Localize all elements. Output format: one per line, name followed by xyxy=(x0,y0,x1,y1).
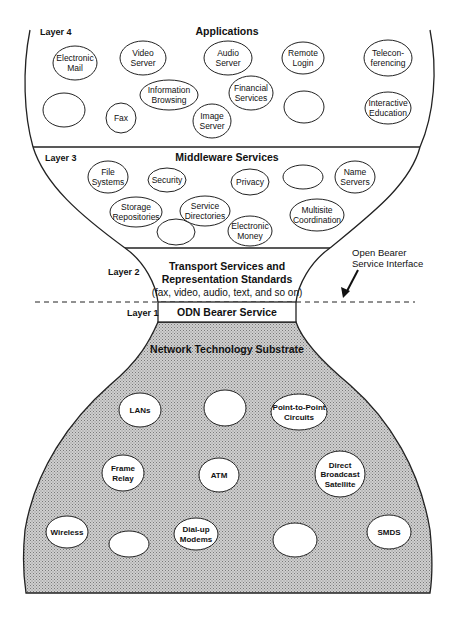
node-label: Financial xyxy=(234,83,268,93)
node-name-servers: NameServers xyxy=(335,161,375,193)
layer3-title: Middleware Services xyxy=(175,151,278,163)
node-lans: LANs xyxy=(119,393,161,427)
node-ellipse xyxy=(109,531,149,557)
node-label: Point-to-Point xyxy=(273,403,326,412)
node-label: Information xyxy=(148,85,191,95)
node-ellipse xyxy=(283,165,323,189)
node-label: Multisite xyxy=(301,205,332,215)
node-label: Login xyxy=(293,58,314,68)
substrate-title: Network Technology Substrate xyxy=(150,343,304,355)
node-label: Satellite xyxy=(325,480,356,489)
node-empty xyxy=(204,390,246,426)
node-atm: ATM xyxy=(199,458,239,492)
node-label: Wireless xyxy=(51,528,84,537)
node-label: Mail xyxy=(67,63,83,73)
diagram-canvas: Layer 4 Applications Layer 3 Middleware … xyxy=(0,0,455,618)
node-point-to-point-circuits: Point-to-PointCircuits xyxy=(271,394,327,430)
node-multisite-coordination: MultisiteCoordination xyxy=(290,199,344,231)
node-financial-services: FinancialServices xyxy=(229,76,273,110)
layer2-label: Layer 2 xyxy=(108,267,140,277)
hourglass-diagram: Layer 4 Applications Layer 3 Middleware … xyxy=(0,0,455,618)
node-label: Money xyxy=(237,231,263,241)
layer4-right-edge xyxy=(420,30,434,147)
node-label: Fax xyxy=(114,113,129,123)
node-ellipse xyxy=(284,91,324,123)
annotation-line2: Service Interface xyxy=(352,258,423,269)
node-label: Name xyxy=(344,167,367,177)
annotation-line1: Open Bearer xyxy=(352,247,406,258)
node-label: Telecon- xyxy=(372,48,404,58)
node-video-server: VideoServer xyxy=(120,41,166,75)
layer3-label: Layer 3 xyxy=(45,153,77,163)
node-label: Coordination xyxy=(293,215,341,225)
node-storage-repositories: StorageRepositories xyxy=(110,197,162,227)
layer1-label: Layer 1 xyxy=(127,308,159,318)
node-label: Direct xyxy=(329,461,352,470)
node-privacy: Privacy xyxy=(231,169,269,195)
node-label: Privacy xyxy=(236,177,265,187)
node-label: Storage xyxy=(121,202,151,212)
node-label: Broadcast xyxy=(320,470,359,479)
node-label: Server xyxy=(199,121,224,131)
node-empty xyxy=(157,219,195,245)
layer2-subtitle: (fax, video, audio, text, and so on) xyxy=(152,287,303,298)
node-label: Security xyxy=(152,175,183,185)
node-ellipse xyxy=(273,523,317,557)
node-label: Repositories xyxy=(112,212,159,222)
node-security: Security xyxy=(148,168,186,192)
node-label: Servers xyxy=(340,177,369,187)
node-ellipse xyxy=(157,219,195,245)
node-label: Browsing xyxy=(152,95,187,105)
layer4-label: Layer 4 xyxy=(40,27,72,37)
node-label: Circuits xyxy=(284,413,314,422)
node-empty xyxy=(284,91,324,123)
node-label: Electronic xyxy=(231,221,269,231)
substrate-region xyxy=(23,322,431,593)
node-audio-server: AudioServer xyxy=(204,41,252,75)
node-empty xyxy=(283,165,323,189)
layer4-left-edge xyxy=(25,30,33,147)
node-fax: Fax xyxy=(106,103,136,133)
node-interactive-education: InteractiveEducation xyxy=(365,92,411,124)
node-label: ATM xyxy=(211,471,228,480)
node-label: Server xyxy=(130,58,155,68)
node-empty xyxy=(43,93,85,127)
node-label: Image xyxy=(200,111,224,121)
annotation-arrow-shaft xyxy=(346,270,358,293)
node-label: Systems xyxy=(92,177,125,187)
node-smds: SMDS xyxy=(367,515,411,549)
node-label: Electronic xyxy=(56,53,94,63)
node-dial-up-modems: Dial-upModems xyxy=(174,518,218,550)
node-label: Directories xyxy=(185,211,226,221)
node-image-server: ImageServer xyxy=(193,104,231,138)
node-label: Dial-up xyxy=(182,525,209,534)
node-label: Services xyxy=(235,93,268,103)
node-direct-broadcast-satellite: DirectBroadcastSatellite xyxy=(315,451,365,497)
node-label: Video xyxy=(132,48,154,58)
node-remote-login: RemoteLogin xyxy=(282,42,324,74)
layer4-title: Applications xyxy=(195,25,258,37)
node-frame-relay: FrameRelay xyxy=(102,455,144,491)
layer3-right-edge xyxy=(330,147,420,248)
layer2-title-line2: Representation Standards xyxy=(162,273,293,285)
node-label: Audio xyxy=(217,48,239,58)
node-wireless: Wireless xyxy=(46,516,88,548)
node-label: Remote xyxy=(288,48,318,58)
node-label: LANs xyxy=(130,406,151,415)
node-label: ferencing xyxy=(371,58,406,68)
node-information-browsing: InformationBrowsing xyxy=(140,80,198,110)
layer2-title-line1: Transport Services and xyxy=(169,260,285,272)
node-electronic-money: ElectronicMoney xyxy=(228,216,272,246)
node-label: SMDS xyxy=(377,528,401,537)
layer1-title: ODN Bearer Service xyxy=(177,306,277,318)
node-label: Relay xyxy=(112,474,134,483)
node-label: Education xyxy=(369,108,407,118)
node-label: Server xyxy=(215,58,240,68)
node-ellipse xyxy=(204,390,246,426)
node-label: Service xyxy=(191,201,220,211)
node-label: Interactive xyxy=(368,98,407,108)
node-electronic-mail: ElectronicMail xyxy=(53,46,97,80)
node-ellipse xyxy=(43,93,85,127)
node-empty xyxy=(109,531,149,557)
node-label: Frame xyxy=(111,464,136,473)
